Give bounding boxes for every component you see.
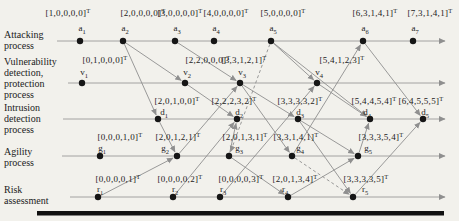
event-dot-a7 bbox=[410, 38, 416, 44]
event-name-g2: g2 bbox=[161, 143, 169, 155]
event-dot-a4 bbox=[211, 38, 217, 44]
vector-label-d1: [2,0,1,0,0]T bbox=[154, 95, 199, 107]
event-name-r1: r1 bbox=[97, 184, 103, 196]
row-label-risk: Riskassessment bbox=[4, 184, 49, 206]
vector-label-g5: [3,3,3,5,4]T bbox=[358, 131, 403, 143]
row-label-attack: Attackingprocess bbox=[4, 29, 43, 51]
bottom-rule bbox=[37, 211, 444, 216]
event-name-r3: r3 bbox=[220, 184, 226, 196]
event-name-g4: g4 bbox=[296, 143, 305, 155]
event-dot-v2 bbox=[182, 80, 188, 86]
event-name-v4: v4 bbox=[315, 67, 324, 79]
event-dot-a5 bbox=[268, 38, 274, 44]
vector-label-v1: [0,1,0,0,0]T bbox=[82, 54, 127, 66]
event-name-v3: v3 bbox=[238, 67, 246, 79]
event-name-r5: r5 bbox=[362, 184, 368, 196]
event-name-v1: v1 bbox=[80, 67, 88, 79]
event-name-d3: d3 bbox=[296, 107, 304, 119]
vector-label-a1: [1,0,0,0,0]T bbox=[45, 7, 90, 19]
event-name-d4: d4 bbox=[363, 107, 372, 119]
vector-label-d4: [5,4,4,5,4]T bbox=[351, 95, 396, 107]
event-dot-a3 bbox=[172, 38, 178, 44]
vector-label-r5: [3,3,3,3,5]T bbox=[343, 173, 388, 185]
vector-clock-figure: AttackingprocessVulnerabilitydetection,p… bbox=[0, 0, 459, 221]
vector-label-a4: [4,0,0,0,0]T bbox=[203, 7, 248, 19]
event-name-a7: a7 bbox=[411, 23, 419, 35]
event-dot-a2 bbox=[120, 38, 126, 44]
vector-label-r2: [0,0,0,0,2]T bbox=[157, 173, 202, 185]
event-name-v2: v2 bbox=[183, 67, 191, 79]
vector-label-a7: [7,3,1,4,1]T bbox=[407, 7, 452, 19]
event-dot-a1 bbox=[77, 38, 83, 44]
vector-label-d2: [2,2,2,3,2]T bbox=[211, 95, 256, 107]
event-dot-v4 bbox=[314, 80, 320, 86]
row-label-agility: Agilityprocess bbox=[4, 146, 34, 168]
event-dot-g3 bbox=[226, 153, 232, 159]
event-name-a4: a4 bbox=[212, 23, 220, 35]
event-name-a1: a1 bbox=[78, 23, 85, 35]
event-dot-v1 bbox=[79, 80, 85, 86]
event-name-d5: d5 bbox=[421, 107, 429, 119]
vector-label-g4: [3,3,1,4,1]T bbox=[273, 131, 318, 143]
event-name-g5: g5 bbox=[364, 143, 372, 155]
edge-a5-v4 bbox=[274, 43, 314, 80]
vector-label-a3: [3,0,0,0,0]T bbox=[157, 7, 202, 19]
vector-label-d3: [3,3,3,3,2]T bbox=[277, 95, 322, 107]
diagram-svg: AttackingprocessVulnerabilitydetection,p… bbox=[0, 0, 459, 221]
event-name-a3: a3 bbox=[173, 23, 180, 35]
vector-label-d5: [6,4,5,5,5]T bbox=[398, 95, 443, 107]
event-name-r4: r4 bbox=[282, 184, 289, 196]
row-label-intrusion: Intrusiondetectionprocess bbox=[4, 102, 41, 135]
event-name-a2: a2 bbox=[121, 23, 128, 35]
event-name-d2: d2 bbox=[235, 107, 243, 119]
vector-label-a6: [6,3,1,4,1]T bbox=[352, 7, 397, 19]
event-dot-g4 bbox=[289, 153, 295, 159]
row-label-vuln: Vulnerabilitydetection,protectionprocess bbox=[4, 56, 57, 100]
event-name-d1: d1 bbox=[160, 107, 168, 119]
vector-label-r1: [0,0,0,0,1]T bbox=[95, 173, 140, 185]
event-dot-a6 bbox=[360, 38, 366, 44]
event-name-a6: a6 bbox=[361, 23, 369, 35]
event-dot-g5 bbox=[355, 153, 361, 159]
event-name-r2: r2 bbox=[172, 184, 178, 196]
edge-a2-v2 bbox=[126, 43, 181, 81]
event-dot-v3 bbox=[237, 80, 243, 86]
edge-a2-d1 bbox=[124, 44, 156, 115]
vector-label-g1: [0,0,0,1,0]T bbox=[97, 131, 142, 143]
event-name-g1: g1 bbox=[98, 143, 106, 155]
vector-label-v3: [3,3,1,2,1]T bbox=[221, 54, 266, 66]
vector-label-r3: [0,0,0,0,3]T bbox=[218, 173, 263, 185]
event-dot-g2 bbox=[174, 153, 180, 159]
vector-label-g3: [2,0,1,3,1]T bbox=[222, 131, 267, 143]
vector-label-g2: [2,0,1,2,1]T bbox=[155, 131, 200, 143]
event-name-a5: a5 bbox=[269, 23, 276, 35]
vector-label-r4: [2,0,1,3,4]T bbox=[272, 173, 317, 185]
event-name-g3: g3 bbox=[235, 143, 243, 155]
vector-label-v4: [5,4,1,2,3]T bbox=[319, 54, 364, 66]
event-dot-r5 bbox=[350, 194, 356, 200]
vector-label-a5: [5,0,0,0,0]T bbox=[260, 7, 305, 19]
